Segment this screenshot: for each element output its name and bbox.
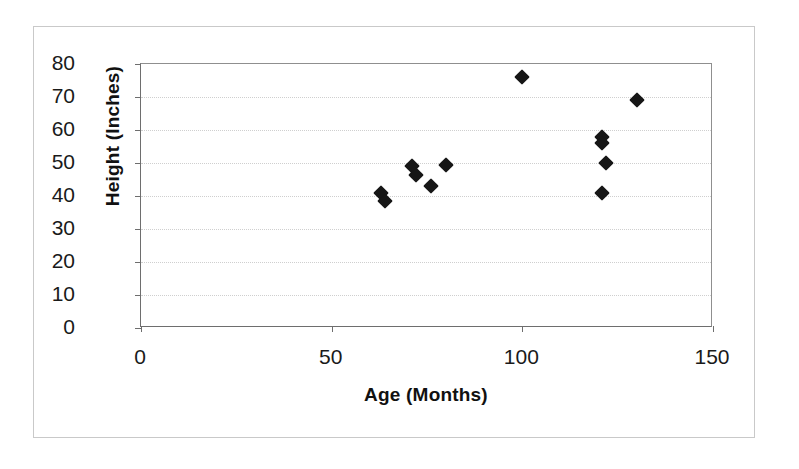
x-axis-title: Age (Months) [140,384,712,406]
plot-area [140,63,712,327]
y-tick-label: 0 [15,316,75,337]
data-point [598,155,614,171]
y-tick-label: 30 [15,217,75,238]
x-tick-label: 0 [100,346,180,367]
data-markers [141,64,711,326]
y-tick-label: 80 [15,52,75,73]
data-point [595,185,611,201]
data-point [515,69,531,85]
y-axis-title: Height (Inches) [102,21,124,251]
x-tick-label: 100 [481,346,561,367]
x-tick [713,326,714,332]
data-point [438,157,454,173]
y-tick-label: 70 [15,85,75,106]
y-tick-label: 40 [15,184,75,205]
scatter-plot-figure: Height (Inches) 01020304050607080 050100… [0,0,799,469]
x-tick [332,326,333,332]
chart-canvas: Height (Inches) 01020304050607080 050100… [0,0,799,469]
y-tick-label: 60 [15,118,75,139]
y-tick-label: 10 [15,283,75,304]
x-tick [141,326,142,332]
x-tick-label: 50 [291,346,371,367]
data-point [423,178,439,194]
y-tick-label: 50 [15,151,75,172]
x-tick-label: 150 [672,346,752,367]
data-point [629,93,645,109]
x-tick [522,326,523,332]
y-tick-label: 20 [15,250,75,271]
